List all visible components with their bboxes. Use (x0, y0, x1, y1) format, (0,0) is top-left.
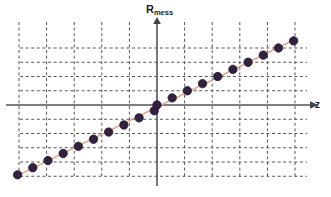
data-point-marker (198, 79, 206, 87)
y-axis-label-main: R (146, 3, 154, 15)
x-axis-label: z (315, 100, 320, 110)
chart-figure: Rmess z (0, 0, 331, 197)
data-points (13, 37, 297, 179)
axes-group (6, 17, 318, 186)
data-point-marker (183, 87, 191, 95)
y-axis-label-subscript: mess (154, 8, 173, 17)
data-point-marker (153, 101, 161, 109)
data-point-marker (105, 128, 113, 136)
data-point-marker (59, 149, 67, 157)
data-point-marker (289, 37, 297, 45)
data-point-marker (259, 51, 267, 59)
y-axis-label: Rmess (146, 4, 173, 15)
data-point-marker (214, 72, 222, 80)
scatter-plot-canvas (0, 0, 331, 197)
data-point-marker (89, 135, 97, 143)
y-axis-arrow-icon (153, 17, 161, 24)
data-point-marker (120, 121, 128, 129)
data-point-marker (74, 142, 82, 150)
data-point-marker (229, 65, 237, 73)
data-point-marker (44, 156, 52, 164)
data-point-marker (135, 114, 143, 122)
data-point-marker (274, 44, 282, 52)
data-point-marker (168, 94, 176, 102)
data-point-marker (244, 58, 252, 66)
data-point-marker (13, 171, 21, 179)
data-point-marker (29, 164, 37, 172)
